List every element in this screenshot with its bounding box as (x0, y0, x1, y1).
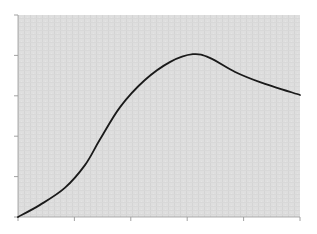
chart-svg (0, 0, 317, 234)
chart (0, 0, 317, 234)
y-axis-ticks (14, 15, 18, 217)
x-axis-ticks (18, 217, 300, 221)
plot-area (18, 15, 300, 217)
